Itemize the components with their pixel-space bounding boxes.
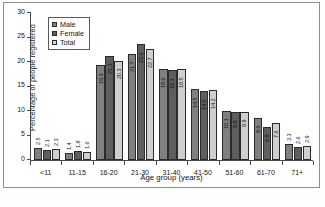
bar-value-label: 9.9 <box>241 120 247 127</box>
bar-value-label: 1.6 <box>84 142 90 149</box>
x-tick <box>93 161 94 165</box>
bar-group: 21.723.622.7 <box>128 13 154 160</box>
bar-value-label: 2.5 <box>35 137 41 144</box>
legend-item-total: Total <box>52 38 84 47</box>
legend-label-female: Female <box>60 29 84 38</box>
bar-female: 18.3 <box>168 70 176 160</box>
y-tick-label: 15 <box>17 81 25 88</box>
bar-value-label: 21.7 <box>129 62 135 73</box>
x-tick <box>187 161 188 165</box>
bar-value-label: 19.3 <box>98 74 104 85</box>
caption-fragment-strip: Source: <box>6 196 306 204</box>
x-tick <box>61 161 62 165</box>
bar-value-label: 2.6 <box>295 137 301 144</box>
bar-total: 2.3 <box>52 149 60 160</box>
bar-female: 6.8 <box>263 127 271 160</box>
chart-legend: Male Female Total <box>48 17 90 50</box>
bar-value-label: 7.6 <box>273 131 279 138</box>
bar-total: 14.2 <box>209 90 217 160</box>
bar-group: 18.618.318.5 <box>159 13 185 160</box>
x-tick <box>124 161 125 165</box>
legend-item-female: Female <box>52 29 84 38</box>
bar-value-label: 2.1 <box>44 139 50 146</box>
bar-total: 22.7 <box>146 49 154 160</box>
legend-label-total: Total <box>60 38 75 47</box>
y-tick-label: 30 <box>17 8 25 15</box>
bar-female: 2.1 <box>43 150 51 160</box>
bar-female: 23.6 <box>137 44 145 160</box>
legend-swatch-female-icon <box>52 31 57 36</box>
x-tick <box>313 161 314 165</box>
bar-female: 2.6 <box>294 147 302 160</box>
bar-value-label: 18.6 <box>160 77 166 88</box>
bar-value-label: 14.0 <box>201 100 207 111</box>
x-axis-title: Age group (years) <box>30 173 313 182</box>
bar-male: 19.3 <box>96 65 104 160</box>
bar-value-label: 14.5 <box>192 97 198 108</box>
bar-total: 1.6 <box>83 152 91 160</box>
bar-female: 21.3 <box>105 56 113 160</box>
legend-item-male: Male <box>52 20 84 29</box>
x-tick <box>250 161 251 165</box>
y-tick-label: 20 <box>17 57 25 64</box>
bar-value-label: 18.3 <box>169 79 175 90</box>
bar-group: 14.514.014.2 <box>191 13 217 160</box>
bar-value-label: 2.9 <box>304 135 310 142</box>
bar-value-label: 23.6 <box>138 53 144 64</box>
bar-male: 18.6 <box>159 69 167 160</box>
legend-label-male: Male <box>60 20 76 29</box>
bar-female: 14.0 <box>200 91 208 160</box>
bar-male: 14.5 <box>191 89 199 160</box>
x-tick <box>219 161 220 165</box>
bar-group: 8.66.87.6 <box>254 13 280 160</box>
legend-swatch-male-icon <box>52 22 57 27</box>
bar-total: 18.5 <box>177 69 185 160</box>
bar-value-label: 10.1 <box>223 119 229 130</box>
bar-group: 10.19.89.9 <box>222 13 248 160</box>
y-tick-label: 10 <box>17 106 25 113</box>
bar-value-label: 21.3 <box>107 64 113 75</box>
bar-value-label: 1.8 <box>75 141 81 148</box>
bar-total: 9.9 <box>240 112 248 161</box>
legend-swatch-total-icon <box>52 40 57 45</box>
bar-value-label: 22.7 <box>147 57 153 68</box>
figure-page: Percentage of people registered 05101520… <box>0 0 325 207</box>
x-tick <box>30 161 31 165</box>
bar-male: 8.6 <box>254 118 262 160</box>
bar-value-label: 20.3 <box>116 69 122 80</box>
bar-male: 10.1 <box>222 111 230 160</box>
x-axis-line <box>30 160 313 161</box>
bar-male: 1.4 <box>65 153 73 160</box>
y-tick-label: 5 <box>21 130 25 137</box>
bar-value-label: 9.8 <box>232 120 238 127</box>
bar-male: 2.5 <box>34 148 42 160</box>
x-tick <box>156 161 157 165</box>
bar-value-label: 3.3 <box>286 133 292 140</box>
bar-value-label: 14.2 <box>210 99 216 110</box>
bar-value-label: 2.3 <box>53 138 59 145</box>
x-tick <box>282 161 283 165</box>
bar-total: 2.9 <box>303 146 311 160</box>
bar-female: 9.8 <box>231 112 239 160</box>
bar-value-label: 6.8 <box>264 135 270 142</box>
bar-value-label: 8.6 <box>255 126 261 133</box>
y-tick-label: 0 <box>21 155 25 162</box>
bar-male: 21.7 <box>128 54 136 160</box>
bar-total: 7.6 <box>272 123 280 160</box>
bar-total: 20.3 <box>114 61 122 160</box>
bar-group: 3.32.62.9 <box>285 13 311 160</box>
bar-value-label: 18.5 <box>178 78 184 89</box>
bar-group: 19.321.320.3 <box>96 13 122 160</box>
bar-chart-figure: Percentage of people registered 05101520… <box>4 3 319 187</box>
y-tick-label: 25 <box>17 32 25 39</box>
bar-value-label: 1.4 <box>66 143 72 150</box>
bar-male: 3.3 <box>285 144 293 160</box>
bar-female: 1.8 <box>74 151 82 160</box>
